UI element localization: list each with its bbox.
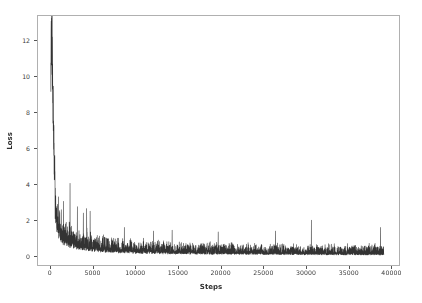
y-tick-mark [34,148,37,149]
x-tick-label: 0 [48,269,52,276]
y-tick-mark [34,40,37,41]
y-tick-label: 12 [22,37,30,44]
x-tick-label: 5000 [84,269,100,276]
y-tick-mark [34,184,37,185]
y-tick-label: 8 [26,109,30,116]
y-axis-label-text: Loss [6,132,14,150]
loss-curve-figure: 0500010000150002000025000300003500040000… [0,0,422,303]
y-tick-label: 10 [22,73,30,80]
y-axis-label: Loss [4,0,16,281]
y-tick-mark [34,220,37,221]
x-tick-label: 30000 [296,269,316,276]
x-tick-label: 40000 [381,269,401,276]
y-tick-mark [34,76,37,77]
plot-axes [37,15,400,266]
y-tick-label: 4 [26,181,30,188]
loss-line-series [38,16,401,267]
x-axis-label: Steps [0,283,422,291]
y-tick-label: 0 [26,253,30,260]
y-tick-label: 6 [26,145,30,152]
y-tick-mark [34,256,37,257]
x-tick-label: 25000 [253,269,273,276]
x-tick-label: 10000 [125,269,145,276]
x-tick-label: 20000 [211,269,231,276]
x-tick-label: 15000 [168,269,188,276]
y-tick-mark [34,112,37,113]
x-tick-label: 35000 [339,269,359,276]
y-tick-label: 2 [26,217,30,224]
